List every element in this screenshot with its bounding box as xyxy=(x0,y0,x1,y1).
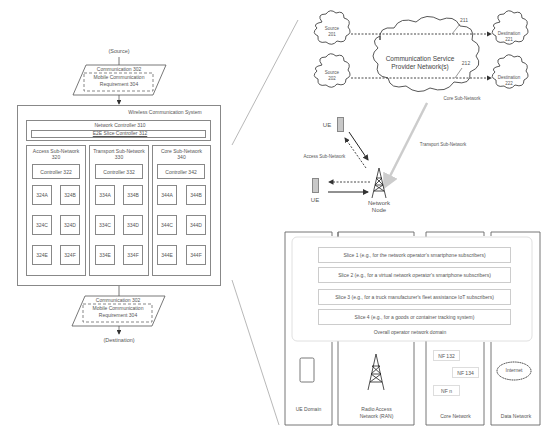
core-network-label: Core Network xyxy=(427,414,484,420)
source-201-line1: Source xyxy=(322,26,342,31)
provider-network-line1: Communication Service xyxy=(380,55,460,62)
communication-top-label: Communication 302 xyxy=(88,67,150,73)
operator-domain-label: Overall operator network domain xyxy=(360,330,460,336)
system-title: Wireless Communication System xyxy=(125,110,205,116)
destination-221-line2: 221 xyxy=(494,37,524,42)
ue-device-icon-bottom xyxy=(312,178,319,193)
unit-344B: 344B xyxy=(186,185,206,205)
nf-134: NF 134 xyxy=(452,367,479,378)
access-sub-network-number: 320 xyxy=(26,155,86,161)
ran-domain-line2: Network (RAN) xyxy=(339,414,414,420)
path-label-211: 211 xyxy=(457,18,471,24)
source-202-line1: Source xyxy=(322,70,342,75)
ue-domain-label: UE Domain xyxy=(286,407,331,413)
destination-222-line1: Destination xyxy=(494,75,524,80)
slice-1: Slice 1 (e.g., for the network operator'… xyxy=(318,247,511,263)
unit-344A: 344A xyxy=(157,185,177,205)
unit-344E: 344E xyxy=(157,245,177,265)
destination-label: (Destination) xyxy=(99,337,139,343)
unit-324D: 324D xyxy=(60,215,80,235)
core-sub-network-label: Core Sub-Network xyxy=(437,96,487,101)
unit-324F: 324F xyxy=(60,245,80,265)
unit-324A: 324A xyxy=(32,185,52,205)
slice-4: Slice 4 (e.g., for a goods or container … xyxy=(318,309,511,325)
network-node-line2: Node xyxy=(364,207,394,214)
unit-324E: 324E xyxy=(32,245,52,265)
requirement-top-line1: Mobile Communication xyxy=(88,75,150,81)
unit-334C: 334C xyxy=(95,215,115,235)
ue-label-bottom: UE xyxy=(308,197,322,204)
unit-344D: 344D xyxy=(186,215,206,235)
source-label: (Source) xyxy=(104,48,134,54)
unit-334B: 334B xyxy=(123,185,143,205)
source-201-line2: 201 xyxy=(322,32,342,37)
unit-324B: 324B xyxy=(60,185,80,205)
ue-device-icon-top xyxy=(337,117,344,132)
nf-n: NF n xyxy=(433,385,460,396)
destination-221-line1: Destination xyxy=(494,31,524,36)
slice-controller-label: E2E Slice Controller 312 xyxy=(85,131,155,137)
controller-342: Controller 342 xyxy=(157,164,205,179)
provider-network-cloud xyxy=(373,16,479,91)
ran-tower-icon xyxy=(368,354,384,390)
unit-344C: 344C xyxy=(157,215,177,235)
requirement-bottom-line1: Mobile Communication xyxy=(87,306,149,312)
network-controller-label: Network Controller 310 xyxy=(90,123,150,129)
path-label-212: 212 xyxy=(459,61,473,67)
internet-label: Internet xyxy=(500,368,528,374)
unit-334D: 334D xyxy=(123,215,143,235)
unit-324C: 324C xyxy=(32,215,52,235)
controller-322: Controller 322 xyxy=(32,164,80,179)
zoom-connector-bottom xyxy=(232,280,279,425)
source-202-line2: 202 xyxy=(322,76,342,81)
slice-3: Slice 3 (e.g., for a truck manufacturer'… xyxy=(318,289,511,305)
communication-bottom-label: Communication 302 xyxy=(87,298,149,304)
unit-344F: 344F xyxy=(186,245,206,265)
ue-label-top: UE xyxy=(320,122,334,129)
slice-2: Slice 2 (e.g., for a virtual network ope… xyxy=(318,267,511,283)
data-network-label: Data Network xyxy=(492,414,540,420)
core-sub-network-number: 340 xyxy=(152,155,211,161)
unit-334A: 334A xyxy=(95,185,115,205)
unit-334E: 334E xyxy=(95,245,115,265)
transport-sub-network-label: Transport Sub-Network xyxy=(413,142,473,147)
destination-222-line2: 222 xyxy=(494,81,524,86)
nf-132: NF 132 xyxy=(433,350,460,361)
provider-network-line2: Provider Network(s) xyxy=(380,63,460,70)
ran-domain-line1: Radio Access xyxy=(339,407,414,413)
network-node-line1: Network xyxy=(364,200,394,207)
requirement-bottom-line2: Requirement 304 xyxy=(87,313,149,319)
ue-domain-phone-icon xyxy=(300,358,314,382)
zoom-connector-top xyxy=(232,20,298,145)
transport-sub-network-number: 330 xyxy=(89,155,149,161)
requirement-top-line2: Requirement 304 xyxy=(88,82,150,88)
access-sub-network-label: Access Sub-Network xyxy=(297,154,352,159)
controller-332: Controller 332 xyxy=(95,164,143,179)
unit-334F: 334F xyxy=(123,245,143,265)
network-node-tower-icon xyxy=(372,168,386,198)
